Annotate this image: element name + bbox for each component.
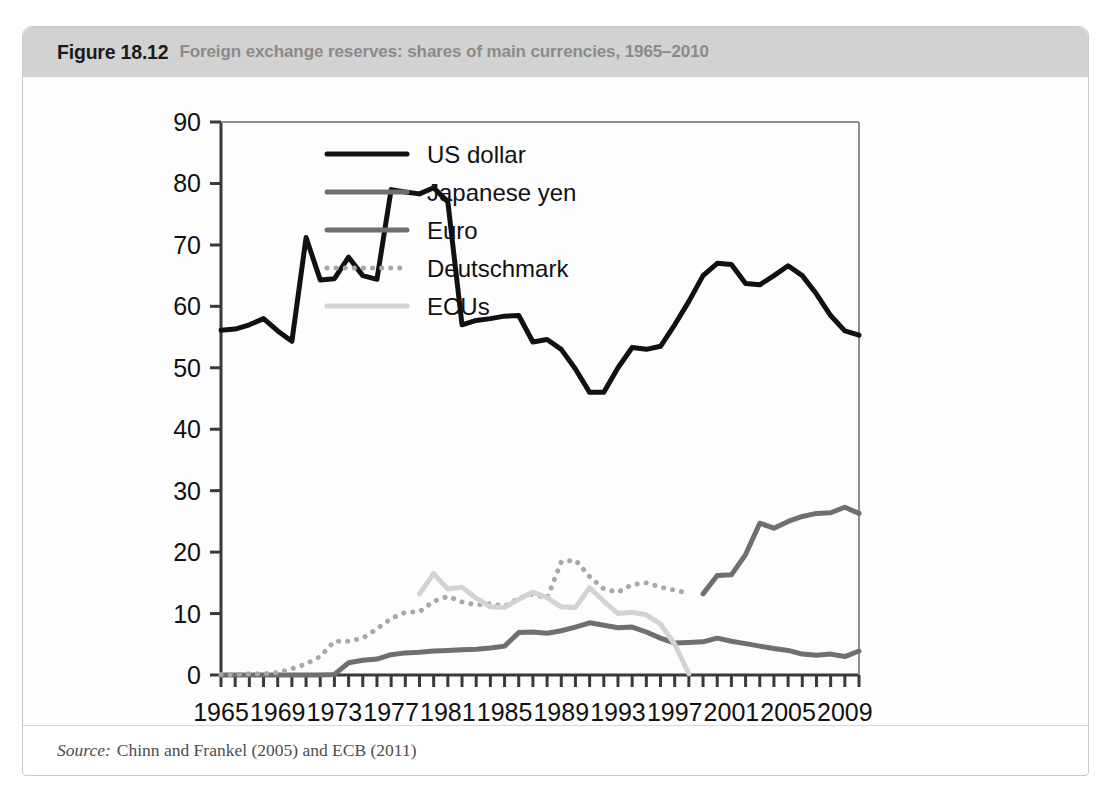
legend-label-euro: Euro [427, 217, 478, 244]
x-tick-label: 1969 [250, 698, 306, 725]
source-label: Source: [57, 740, 111, 761]
source-text: Chinn and Frankel (2005) and ECB (2011) [117, 740, 417, 761]
y-tick-label: 60 [173, 292, 201, 320]
chart-plot-area: 0102030405060708090 19651969197319771981… [23, 77, 1088, 725]
y-tick-label: 50 [173, 354, 201, 382]
y-tick-label: 70 [173, 231, 201, 259]
series-line-japanese-yen [221, 623, 859, 675]
figure-card: Figure 18.12 Foreign exchange reserves: … [22, 26, 1089, 776]
x-tick-label: 2001 [704, 698, 760, 725]
y-tick-label: 40 [173, 415, 201, 443]
x-tick-label: 1989 [533, 698, 589, 725]
y-tick-label: 80 [173, 169, 201, 197]
y-axis: 0102030405060708090 [173, 108, 221, 689]
chart-legend: US dollarJapanese yenEuroDeutschmarkECUs [327, 141, 576, 320]
figure-header: Figure 18.12 Foreign exchange reserves: … [23, 27, 1088, 77]
series-line-deutschmark [221, 560, 689, 674]
legend-label-japanese-yen: Japanese yen [427, 179, 576, 206]
legend-label-us-dollar: US dollar [427, 141, 526, 168]
figure-caption: Foreign exchange reserves: shares of mai… [179, 42, 709, 62]
y-tick-label: 30 [173, 477, 201, 505]
x-tick-label: 2005 [760, 698, 816, 725]
x-tick-label: 1997 [647, 698, 703, 725]
x-tick-label: 1981 [420, 698, 476, 725]
y-tick-label: 90 [173, 108, 201, 136]
x-tick-label: 1965 [193, 698, 249, 725]
y-tick-label: 10 [173, 600, 201, 628]
x-tick-label: 1973 [307, 698, 363, 725]
x-tick-label: 2009 [817, 698, 873, 725]
y-tick-label: 20 [173, 538, 201, 566]
y-tick-label: 0 [187, 661, 201, 689]
series-line-ecus [419, 574, 688, 674]
series-line-us-dollar [221, 188, 859, 393]
legend-label-deutschmark: Deutschmark [427, 255, 569, 282]
x-axis: 1965196919731977198119851989199319972001… [193, 675, 872, 725]
x-tick-label: 1993 [590, 698, 646, 725]
x-tick-label: 1985 [477, 698, 533, 725]
legend-label-ecus: ECUs [427, 293, 490, 320]
x-tick-label: 1977 [363, 698, 419, 725]
line-chart: 0102030405060708090 19651969197319771981… [23, 77, 1088, 725]
series-line-euro [703, 507, 859, 594]
figure-footer: Source: Chinn and Frankel (2005) and ECB… [23, 725, 1088, 775]
figure-number: Figure 18.12 [57, 41, 168, 64]
